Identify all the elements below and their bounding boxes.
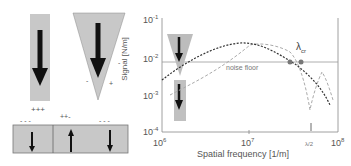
cone-sign-right: +	[109, 80, 113, 87]
domain-charge-3: - - -	[99, 117, 110, 124]
x-tick-1: 106	[153, 137, 166, 148]
series-cylinder-curve	[170, 44, 333, 110]
data-marker	[288, 60, 293, 65]
x-tick-3: 108	[331, 137, 344, 148]
y-tick-4: 10-4	[143, 126, 158, 137]
half-lambda-label: λ/2	[305, 141, 313, 147]
cone-sign-left: -	[86, 77, 88, 84]
y-tick-3: 10-3	[143, 90, 158, 101]
x-tick-2: 107	[241, 137, 254, 148]
y-axis-label: Signal [N/m]	[121, 24, 129, 94]
noise-floor-label: noise floor	[226, 64, 258, 71]
domain-charge-1: - - -	[20, 117, 31, 124]
lambda-label: λcr	[296, 42, 306, 54]
bar-charges: +++	[31, 106, 45, 114]
domain-charge-2: ++-	[60, 113, 71, 120]
y-tick-1: 10-1	[143, 14, 158, 25]
x-axis-label: Spatial frequency [1/m]	[197, 150, 289, 159]
y-tick-2: 10-2	[143, 53, 158, 64]
data-marker	[299, 60, 304, 65]
diagram-canvas	[0, 0, 351, 166]
